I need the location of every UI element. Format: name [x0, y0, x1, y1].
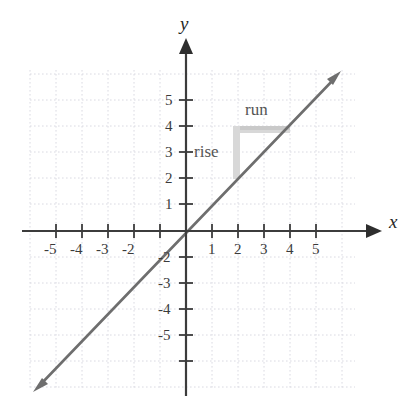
x-axis — [22, 224, 382, 238]
graph-canvas — [0, 0, 410, 410]
y-tick-label-5: 5 — [165, 93, 173, 108]
x-axis-label: x — [389, 212, 397, 231]
y-axis — [179, 38, 193, 396]
x-tick-label-neg2: -2 — [122, 242, 135, 257]
x-tick-label-5: 5 — [312, 242, 320, 257]
y-tick-label-neg3: -3 — [158, 276, 171, 291]
x-tick-label-4: 4 — [286, 242, 294, 257]
rise-label: rise — [194, 143, 219, 160]
y-axis-arrow — [179, 38, 193, 54]
coordinate-graph-figure: y x -5 -4 -3 -2 1 2 3 4 5 5 4 3 2 1 -2 -… — [0, 0, 410, 410]
y-tick-label-neg2: -2 — [158, 250, 171, 265]
x-tick-label-neg4: -4 — [70, 242, 83, 257]
run-bar-shade — [240, 126, 290, 130]
rise-bar — [233, 126, 240, 179]
x-tick-label-neg5: -5 — [44, 242, 57, 257]
y-tick-label-neg5: -5 — [158, 328, 171, 343]
y-tick-label-neg4: -4 — [158, 302, 171, 317]
x-tick-label-neg3: -3 — [96, 242, 109, 257]
run-label: run — [245, 101, 268, 118]
x-tick-label-2: 2 — [234, 242, 242, 257]
y-tick-label-1: 1 — [165, 197, 173, 212]
x-axis-arrow — [366, 224, 382, 238]
x-tick-label-1: 1 — [208, 242, 216, 257]
y-tick-label-3: 3 — [165, 145, 173, 160]
y-tick-label-4: 4 — [165, 119, 173, 134]
y-axis-label: y — [180, 14, 188, 33]
y-tick-label-2: 2 — [165, 171, 173, 186]
x-tick-label-3: 3 — [260, 242, 268, 257]
